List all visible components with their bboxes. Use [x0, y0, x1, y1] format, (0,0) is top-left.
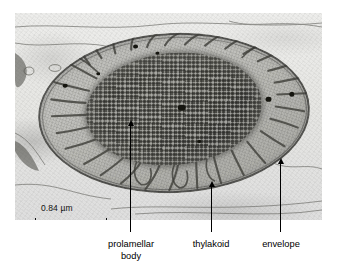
electron-micrograph-image: 0.84 µm — [15, 13, 322, 220]
scale-bar-tick-right — [106, 218, 107, 220]
etioplast-body — [35, 27, 314, 199]
plastoglobule — [63, 84, 68, 88]
plastoglobule — [289, 92, 294, 97]
scale-bar-label: 0.84 µm — [41, 203, 111, 213]
label-prolamellar-body: prolamellar body — [96, 239, 166, 262]
label-prolamellar-body-line1: prolamellar — [96, 239, 166, 251]
label-thylakoid-line1: thylakoid — [176, 239, 246, 251]
label-prolamellar-body-line2: body — [96, 251, 166, 263]
label-thylakoid: thylakoid — [176, 239, 246, 251]
label-envelope: envelope — [246, 239, 316, 251]
figure-root: 0.84 µm prolamellar body thylakoid envel… — [0, 0, 340, 271]
thylakoid-arrow — [211, 186, 212, 232]
envelope-arrow — [280, 163, 281, 232]
plastoglobule — [96, 72, 100, 75]
scale-bar — [35, 218, 107, 220]
prolamellar-body-arrow — [130, 125, 131, 232]
label-envelope-line1: envelope — [246, 239, 316, 251]
plastoglobule — [197, 140, 201, 143]
scale-bar-tick-left — [35, 218, 36, 220]
